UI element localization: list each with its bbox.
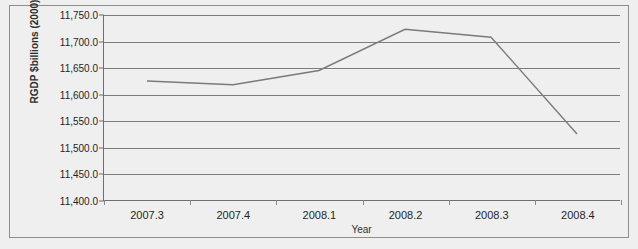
y-axis-tick	[99, 15, 104, 16]
line-series	[104, 15, 620, 200]
x-axis-tick-label: 2008.1	[303, 209, 337, 221]
y-axis-tick	[99, 68, 104, 69]
x-axis-tick-label: 2007.4	[216, 209, 250, 221]
cropped-title-remnant	[30, 0, 240, 3]
x-axis-tick	[363, 200, 364, 205]
y-axis-tick	[99, 94, 104, 95]
chart-frame: RGDP $billions (2000) 11,400.011,450.011…	[9, 5, 629, 238]
x-axis-tick-label: 2008.4	[561, 209, 595, 221]
x-axis-tick	[190, 200, 191, 205]
y-axis-tick-label: 11,600.0	[60, 89, 98, 100]
x-axis-tick	[535, 200, 536, 205]
gridline	[104, 121, 620, 122]
series-line	[147, 29, 577, 134]
x-axis-tick-label: 2008.3	[475, 209, 509, 221]
plot-area: 11,400.011,450.011,500.011,550.011,600.0…	[103, 15, 620, 201]
y-axis-tick-label: 11,500.0	[60, 142, 98, 153]
chart-figure: RGDP $billions (2000) 11,400.011,450.011…	[0, 0, 638, 249]
gridline	[104, 42, 620, 43]
x-axis-tick	[449, 200, 450, 205]
gridline	[104, 148, 620, 149]
gridline	[104, 174, 620, 175]
y-axis-tick	[99, 41, 104, 42]
x-axis-tick	[621, 200, 622, 205]
y-axis-tick	[99, 174, 104, 175]
y-axis-tick-label: 11,400.0	[60, 196, 98, 207]
y-axis-tick-label: 11,650.0	[60, 63, 98, 74]
x-axis-tick	[104, 200, 105, 205]
x-axis-tick-label: 2007.3	[130, 209, 164, 221]
x-axis-title: Year	[103, 224, 620, 235]
x-axis-tick	[276, 200, 277, 205]
gridline	[104, 95, 620, 96]
y-axis-tick-label: 11,550.0	[60, 116, 98, 127]
y-axis-tick-label: 11,700.0	[60, 36, 98, 47]
y-axis-tick-label: 11,450.0	[60, 169, 98, 180]
x-axis-tick-label: 2008.2	[389, 209, 423, 221]
y-axis-tick-label: 11,750.0	[60, 10, 98, 21]
gridline	[104, 15, 620, 16]
y-axis-title: RGDP $billions (2000)	[29, 0, 40, 122]
gridline	[104, 68, 620, 69]
y-axis-tick	[99, 121, 104, 122]
y-axis-tick	[99, 147, 104, 148]
